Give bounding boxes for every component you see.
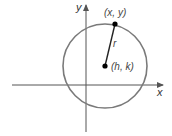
x-axis-label: x (156, 86, 163, 98)
radius-label: r (113, 38, 117, 49)
circle-point (112, 21, 117, 26)
circle-diagram: y x (x, y) r (h, k) (0, 0, 172, 136)
center-label: (h, k) (111, 61, 134, 72)
center-point (102, 63, 107, 68)
y-axis-label: y (75, 1, 83, 13)
point-on-circle-label: (x, y) (104, 7, 126, 18)
